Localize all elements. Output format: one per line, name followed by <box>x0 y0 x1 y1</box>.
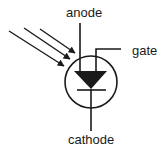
lascr-symbol <box>0 0 162 154</box>
cathode-label: cathode <box>68 133 114 146</box>
lascr-diagram: anode gate cathode <box>0 0 162 154</box>
gate-lead <box>96 49 121 72</box>
diode-triangle-icon <box>74 71 107 89</box>
light-arrows-icon <box>9 28 75 66</box>
gate-label: gate <box>132 44 157 57</box>
light-arrow-1 <box>40 29 75 53</box>
light-arrow-2 <box>24 28 70 59</box>
anode-label: anode <box>66 6 102 19</box>
